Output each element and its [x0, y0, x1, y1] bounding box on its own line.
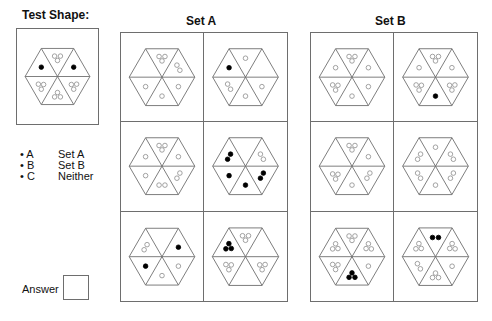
open-dot [175, 176, 180, 181]
filled-dot [353, 275, 358, 280]
filled-dot [176, 245, 181, 250]
filled-dot [243, 183, 248, 188]
open-dot [333, 65, 338, 70]
filled-dot [225, 157, 230, 162]
open-dot [366, 155, 371, 160]
open-dot [160, 59, 165, 64]
filled-dot [433, 94, 438, 99]
filled-dot [227, 65, 232, 70]
open-dot [453, 246, 458, 251]
open-dot [450, 241, 455, 246]
open-dot [347, 54, 352, 59]
open-dot [333, 241, 338, 246]
open-dot [160, 148, 165, 153]
open-dot [333, 88, 338, 93]
open-dot [55, 58, 60, 63]
open-dot [419, 246, 424, 251]
filled-dot [258, 176, 263, 181]
set-a-cell [121, 33, 204, 122]
open-dot [243, 94, 248, 99]
filled-dot [71, 65, 76, 70]
filled-dot [227, 174, 232, 179]
open-dot [430, 275, 435, 280]
open-dot [436, 275, 441, 280]
open-dot [353, 233, 358, 238]
open-dot [336, 172, 341, 177]
open-dot [224, 262, 229, 267]
hexagon [394, 212, 477, 301]
set-a-cell [204, 212, 287, 301]
filled-dot [229, 246, 234, 251]
open-dot [157, 54, 162, 59]
open-dot [433, 59, 438, 64]
open-dot [263, 262, 268, 267]
hexagon [204, 33, 287, 121]
filled-dot [39, 65, 44, 70]
open-dot [330, 262, 335, 267]
open-dot [448, 152, 453, 157]
answer-legend: • A Set A • B Set B • C Neither [20, 149, 93, 182]
open-dot [417, 88, 422, 93]
set-a-title: Set A [186, 14, 216, 28]
open-dot [52, 95, 57, 100]
open-dot [451, 157, 456, 162]
open-dot [178, 171, 183, 176]
answer-input[interactable] [63, 275, 89, 300]
open-dot [350, 148, 355, 153]
open-dot [447, 83, 452, 88]
open-dot [448, 176, 453, 181]
open-dot [157, 144, 162, 149]
open-dot [433, 183, 438, 188]
open-dot [350, 238, 355, 243]
open-dot [330, 172, 335, 177]
open-dot [58, 95, 63, 100]
open-dot [240, 233, 245, 238]
open-dot [447, 246, 452, 251]
open-dot [163, 54, 168, 59]
filled-dot [261, 171, 266, 176]
open-dot [418, 266, 423, 271]
open-dot [369, 246, 374, 251]
open-dot [175, 63, 180, 68]
hexagon [204, 212, 287, 301]
open-dot [41, 82, 46, 87]
set-b-cell [394, 33, 477, 122]
set-a-cell [121, 212, 204, 301]
open-dot [368, 171, 373, 176]
open-dot [258, 152, 263, 157]
open-dot [71, 87, 76, 92]
open-dot [414, 83, 419, 88]
set-b-cell [311, 33, 394, 122]
open-dot [433, 270, 438, 275]
filled-dot [436, 235, 441, 240]
open-dot [347, 144, 352, 149]
open-dot [333, 267, 338, 272]
open-dot [227, 267, 232, 272]
open-dot [145, 242, 150, 247]
set-a-cell [204, 122, 287, 211]
hexagon [121, 33, 203, 121]
open-dot [417, 241, 422, 246]
open-dot [36, 82, 41, 87]
filled-dot [350, 270, 355, 275]
open-dot [415, 157, 420, 162]
set-a-cell [121, 122, 204, 211]
open-dot [55, 90, 60, 95]
hexagon [311, 33, 393, 121]
set-a-cell [204, 33, 287, 122]
open-dot [157, 183, 162, 188]
filled-dot [228, 152, 233, 157]
open-dot [229, 262, 234, 267]
answer-label: Answer [22, 283, 59, 295]
open-dot [69, 82, 74, 87]
open-dot [418, 176, 423, 181]
hexagon [394, 33, 477, 121]
open-dot [257, 262, 262, 267]
open-dot [450, 264, 455, 269]
open-dot [366, 264, 371, 269]
open-dot [366, 65, 371, 70]
legend-item-c: • C Neither [20, 171, 93, 182]
open-dot [52, 54, 57, 59]
open-dot [330, 83, 335, 88]
open-dot [430, 54, 435, 59]
